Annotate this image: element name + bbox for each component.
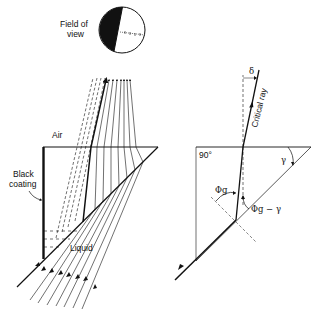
dashed-rays [56, 78, 105, 238]
right-prism: 90° δ γ Φg Φg − γ Critical ray [175, 66, 311, 280]
liquid-label: Liquid [70, 243, 93, 253]
field-of-view-label: Field of [60, 19, 89, 29]
critical-ray-left [83, 80, 106, 222]
phi-g-label: Φg [215, 185, 228, 195]
left-prism: Air Black coating Liquid [9, 78, 158, 309]
gamma-label: γ [281, 155, 286, 165]
black-coating-label: Black [13, 169, 35, 179]
incoming-grazing-ray [175, 220, 236, 280]
field-of-view: Field of view [60, 7, 145, 53]
air-label: Air [52, 130, 63, 140]
coating-pointer-arrow [29, 191, 41, 200]
refracted-ray-inside [236, 147, 243, 220]
critical-ray-label: Critical ray [249, 86, 269, 128]
incoming-arrow [178, 264, 184, 270]
right-angle-label: 90° [199, 150, 212, 160]
refractometer-diagram: Field of view [0, 0, 326, 310]
delta-label: δ [249, 66, 254, 76]
black-coating-label-2: coating [9, 179, 37, 189]
phi-g-minus-gamma-label: Φg − γ [251, 204, 281, 214]
field-of-view-label-2: view [67, 29, 85, 39]
hypotenuse-normal [211, 197, 256, 242]
